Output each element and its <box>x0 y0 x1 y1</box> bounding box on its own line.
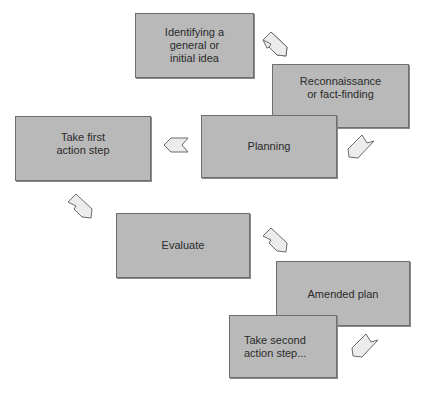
step-label: Take first action step <box>56 131 109 157</box>
arrow-down-right-icon <box>261 226 291 254</box>
step-label: Evaluate <box>162 239 205 252</box>
step-label: Take second action step... <box>244 334 306 360</box>
step-box-identifying-idea: Identifying a general or initial idea <box>135 13 254 78</box>
arrow-down-left-icon <box>346 133 376 161</box>
step-box-evaluate: Evaluate <box>116 213 250 278</box>
step-box-first-action: Take first action step <box>15 116 151 181</box>
arrow-left-icon <box>162 136 190 154</box>
arrow-down-right-icon <box>261 30 291 58</box>
step-label: Identifying a general or initial idea <box>165 26 224 65</box>
step-label: Amended plan <box>308 288 379 301</box>
step-label: Reconnaissance or fact-finding <box>300 75 381 101</box>
step-box-second-action: Take second action step... <box>229 315 337 378</box>
step-box-planning: Planning <box>201 115 337 178</box>
arrow-down-right-icon <box>66 192 96 220</box>
step-label: Planning <box>248 140 291 153</box>
arrow-down-left-icon <box>350 332 380 360</box>
